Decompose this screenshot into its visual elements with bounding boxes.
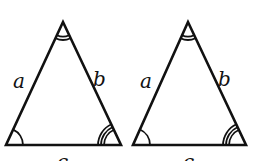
side-label-b: b — [218, 67, 231, 91]
apex-angle-mark-inner — [182, 35, 194, 36]
diagram-canvas: a b c a b c — [0, 0, 257, 161]
bottom-left-angle-mark — [140, 130, 150, 146]
side-label-b: b — [93, 67, 106, 91]
side-label-c: c — [183, 150, 194, 161]
triangle-right: a b c — [133, 22, 246, 161]
bottom-left-angle-mark — [13, 130, 23, 145]
apex-angle-mark-outer — [56, 38, 71, 40]
side-label-a: a — [140, 69, 152, 93]
side-label-a: a — [13, 69, 25, 93]
side-label-c: c — [57, 150, 68, 161]
apex-angle-mark-inner — [57, 35, 69, 36]
apex-angle-mark-outer — [181, 38, 196, 40]
triangle-left: a b c — [6, 22, 121, 161]
